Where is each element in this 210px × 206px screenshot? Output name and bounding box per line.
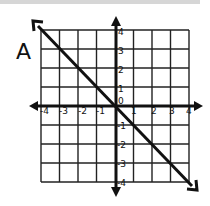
y-axis-up-arrow-icon [111,16,121,26]
y-tick-label: -1 [117,121,126,131]
x-tick-label: 3 [169,106,175,116]
x-tick-label: -2 [78,106,87,116]
origin-label: 0 [118,96,124,106]
y-tick-label: -4 [117,178,126,188]
x-tick-label: 1 [131,106,137,116]
x-axis-left-arrow-icon [29,101,38,111]
x-tick-label: 2 [151,106,157,116]
y-tick-label: -2 [117,140,126,150]
y-tick-label: 2 [118,65,124,75]
y-tick-label: 1 [118,84,124,94]
x-tick-label: -1 [96,106,105,116]
y-tick-label: 4 [118,27,124,37]
x-axis-right-arrow-icon [194,101,203,111]
x-tick-label: -4 [40,106,49,116]
coordinate-graph: A -4 -3 -2 -1 1 2 3 4 4 3 2 1 0 -1 -2 -3… [0,0,210,206]
x-tick-label: -3 [59,106,68,116]
x-tick-label: 4 [186,106,192,116]
graph-label: A [16,39,31,64]
y-tick-label: 3 [118,46,124,56]
y-tick-label: -3 [117,159,126,169]
y-axis-down-arrow-icon [111,187,121,197]
